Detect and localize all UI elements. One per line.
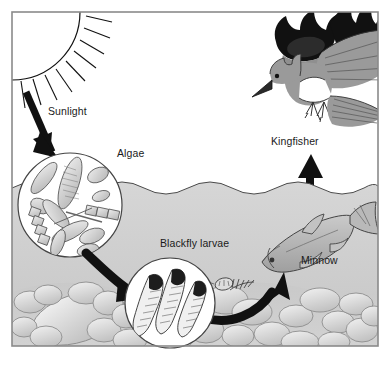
algae-detail-circle [18,153,122,258]
label-algae: Algae [117,148,144,159]
label-kingfisher: Kingfisher [271,136,319,147]
label-blackfly-larvae: Blackfly larvae [160,238,229,249]
label-minnow: Minnow [301,255,338,266]
blackfly-larvae-detail-circle [125,258,215,348]
food-chain-illustration [0,0,391,367]
figure-canvas: Sunlight Algae Blackfly larvae Minnow Ki… [0,0,391,367]
label-sunlight: Sunlight [48,106,87,117]
